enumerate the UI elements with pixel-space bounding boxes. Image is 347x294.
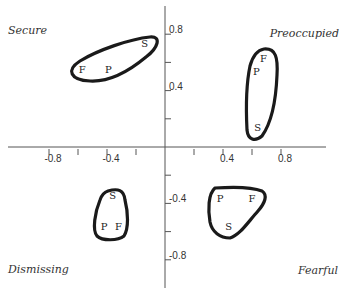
x-ticks: -0.8-0.40.40.8	[44, 149, 292, 164]
y-tick-label: -0.4	[169, 193, 187, 204]
quadrant-label-preoccupied: Preoccupied	[269, 27, 339, 40]
quadrant-label-secure: Secure	[8, 24, 48, 37]
point-label-fearful-s: S	[225, 221, 232, 232]
quadrant-label-dismissing: Dismissing	[7, 263, 69, 276]
point-label-fearful-p: P	[217, 193, 224, 204]
y-tick-label: 0.4	[169, 81, 183, 92]
y-ticks: 0.80.4-0.4-0.8	[165, 24, 187, 261]
point-label-dismissing-p: P	[101, 221, 108, 232]
point-label-preoccupied-f: F	[260, 53, 267, 64]
x-tick-label: 0.4	[220, 153, 234, 164]
point-label-dismissing-f: F	[115, 221, 122, 232]
y-tick-label: 0.8	[169, 24, 183, 35]
x-tick-label: -0.8	[44, 153, 62, 164]
point-label-fearful-f: F	[249, 193, 256, 204]
point-label-preoccupied-s: S	[254, 122, 261, 133]
point-label-dismissing-s: S	[109, 190, 116, 201]
attachment-quadrant-chart: -0.8-0.40.40.8 0.80.4-0.4-0.8 SFPFPSSPFP…	[0, 0, 347, 294]
point-label-preoccupied-p: P	[253, 66, 260, 77]
point-label-secure-p: P	[105, 64, 112, 75]
x-tick-label: 0.8	[278, 153, 292, 164]
quadrant-label-fearful: Fearful	[297, 264, 339, 277]
y-tick-label: -0.8	[169, 250, 187, 261]
x-tick-label: -0.4	[102, 153, 120, 164]
point-label-secure-f: F	[79, 64, 86, 75]
point-label-secure-s: S	[141, 38, 148, 49]
